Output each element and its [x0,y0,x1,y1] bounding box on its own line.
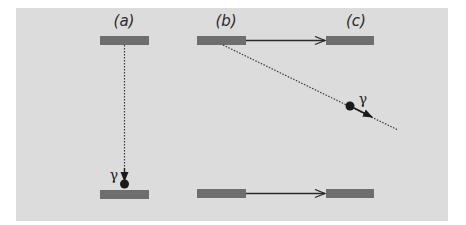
upper-level-a [100,36,149,45]
label-a: (a) [114,12,135,30]
upper-level-b [197,36,246,45]
gamma-label-a: γ [110,167,118,183]
lower-level-a [100,190,149,199]
photon-arrow-b [352,107,372,117]
photon-dot-b [346,102,355,111]
lower-level-b [197,189,246,198]
upper-level-c [326,36,374,45]
label-b: (b) [215,12,236,30]
lower-level-c [326,189,374,198]
label-c: (c) [346,12,366,30]
gamma-label-b: γ [359,91,367,107]
energy-level-diagram: (a) (b) (c) γ γ [0,0,466,225]
photon-dot-a [120,180,129,189]
